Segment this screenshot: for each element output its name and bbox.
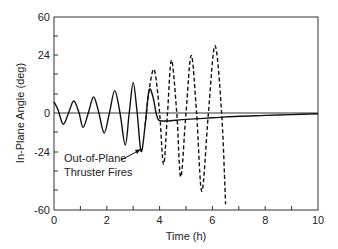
- x-tick-label: 10: [312, 214, 324, 226]
- x-tick-label: 8: [262, 214, 268, 226]
- series-solid-line: [54, 83, 318, 152]
- x-tick-label: 4: [157, 214, 163, 226]
- annotation-line-1: Out-of-Plane: [64, 152, 126, 164]
- x-tick-label: 6: [209, 214, 215, 226]
- x-axis-title: Time (h): [166, 230, 207, 242]
- x-ticks: [80, 206, 291, 210]
- y-tick-label: 0: [44, 107, 50, 119]
- y-tick-label: 24: [38, 49, 50, 61]
- x-tick-label: 2: [104, 214, 110, 226]
- y-axis-title: In-Plane Angle (deg): [14, 63, 26, 163]
- line-chart: 60 24 0 -24 -60 0 2 4 6 8 10 Time (h) In…: [0, 0, 338, 249]
- y-tick-label: -60: [34, 204, 50, 216]
- y-tick-label: -24: [34, 146, 50, 158]
- arrow-head-icon: [135, 149, 141, 154]
- series-dashed-line: [145, 46, 226, 204]
- annotation-line-2: Thruster Fires: [64, 166, 133, 178]
- x-tick-label: 0: [51, 214, 57, 226]
- y-tick-label: 60: [38, 11, 50, 23]
